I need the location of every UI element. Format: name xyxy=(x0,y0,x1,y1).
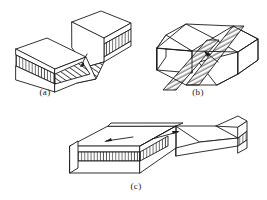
panel-c-main-top-bevel xyxy=(108,123,183,126)
fault-block-diagram-figure: (a) xyxy=(0,0,267,200)
panel-c-caption: (c) xyxy=(131,181,142,191)
panel-c-main-front-face xyxy=(70,161,140,173)
panel-c-main-hatched-bed xyxy=(70,152,140,161)
figure-canvas: (a) xyxy=(0,0,267,200)
panel-b-caption: (b) xyxy=(192,87,203,97)
panel-c-main-left-end-face xyxy=(70,141,78,173)
panel-c-main-upper-band xyxy=(70,146,140,152)
panel-a-caption: (a) xyxy=(40,87,51,97)
